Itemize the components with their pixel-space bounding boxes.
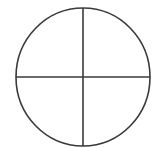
diagram-canvas — [0, 0, 157, 148]
quadrant-circle-figure — [0, 0, 157, 148]
